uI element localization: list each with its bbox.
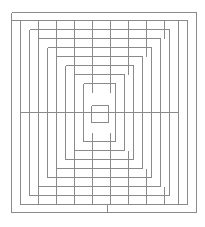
maze-svg xyxy=(0,0,205,227)
